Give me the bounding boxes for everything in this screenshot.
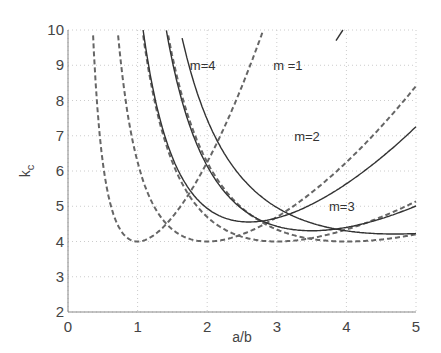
y-tick-label: 3 xyxy=(56,268,64,285)
y-tick-label: 10 xyxy=(47,21,64,38)
x-tick-label: 0 xyxy=(64,318,72,335)
series-simply-supported-m-2 xyxy=(118,35,416,241)
buckling-chart: 0123452345678910 m=4m =1m=2m=3 a/b kc xyxy=(0,0,441,353)
y-tick-label: 8 xyxy=(56,92,64,109)
annotation-label: m=3 xyxy=(329,199,355,214)
annotation-label: m=2 xyxy=(294,129,320,144)
tick-labels: 0123452345678910 xyxy=(47,21,420,335)
y-tick-label: 9 xyxy=(56,56,64,73)
x-axis-label: a/b xyxy=(232,329,252,345)
svg-text:kc: kc xyxy=(17,164,36,177)
series-solid-m-1 xyxy=(336,30,343,41)
x-tick-label: 4 xyxy=(342,318,350,335)
x-tick-label: 5 xyxy=(412,318,420,335)
annotation-label: m =1 xyxy=(273,58,302,73)
y-tick-label: 7 xyxy=(56,127,64,144)
x-tick-label: 2 xyxy=(203,318,211,335)
x-tick-label: 1 xyxy=(133,318,141,335)
y-axis-subscript: c xyxy=(24,164,36,170)
x-tick-label: 3 xyxy=(273,318,281,335)
annotation-label: m=4 xyxy=(190,58,216,73)
y-tick-label: 4 xyxy=(56,233,64,250)
y-tick-label: 5 xyxy=(56,197,64,214)
y-axis-label: kc xyxy=(17,164,36,177)
series-simply-supported-m-1 xyxy=(93,31,263,241)
data-curves xyxy=(93,30,416,242)
y-tick-label: 6 xyxy=(56,162,64,179)
y-tick-label: 2 xyxy=(56,303,64,320)
